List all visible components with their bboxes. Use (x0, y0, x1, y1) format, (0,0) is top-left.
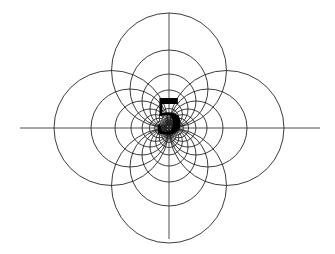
center-numeral-label: 5 (2, 89, 335, 143)
figure-canvas: 5 (0, 0, 335, 254)
